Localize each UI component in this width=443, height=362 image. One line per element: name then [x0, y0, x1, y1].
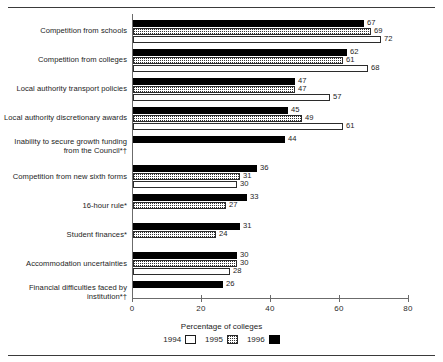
bar-1995-accommodation-uncertainties [133, 260, 237, 267]
value-label-1996-student-finances: 31 [243, 221, 252, 230]
category-label-local-authority-discretionary-awards: Local authority discretionary awards [4, 114, 127, 123]
category-label-accommodation-uncertainties: Accommodation uncertainties [26, 260, 127, 269]
x-tick-label-80: 80 [388, 304, 428, 313]
plot-area: 0 20 40 60 80 67 69 72 62 61 68 47 47 57… [132, 14, 408, 298]
legend-label-1994: 1994 [163, 335, 181, 344]
bar-1996-accommodation-uncertainties [133, 252, 237, 259]
value-label-1996-financial-difficulties: 26 [226, 279, 235, 288]
bar-1996-local-authority-transport-policies [133, 78, 295, 85]
value-label-1995-competition-from-colleges: 61 [346, 55, 355, 64]
x-tick-label-40: 40 [250, 304, 290, 313]
chart-legend: 1994 1995 1996 [0, 335, 443, 344]
bar-1994-accommodation-uncertainties [133, 268, 230, 275]
value-label-1995-16-hour-rule: 27 [229, 200, 238, 209]
bar-1994-competition-from-new-sixth-forms [133, 181, 237, 188]
category-label-student-finances: Student finances* [67, 231, 127, 240]
bar-1996-financial-difficulties [133, 281, 223, 288]
value-label-1994-local-authority-transport-policies: 57 [333, 92, 342, 101]
bar-1995-student-finances [133, 231, 216, 238]
value-label-1996-16-hour-rule: 33 [250, 192, 259, 201]
value-label-1995-local-authority-transport-policies: 47 [298, 84, 307, 93]
x-tick-label-60: 60 [319, 304, 359, 313]
category-label-competition-from-schools: Competition from schools [40, 27, 127, 36]
bar-1996-local-authority-discretionary-awards [133, 107, 288, 114]
category-label-inability-to-secure-growth-funding-line2: from the Council*† [64, 147, 127, 156]
value-label-1994-accommodation-uncertainties: 28 [233, 266, 242, 275]
value-label-1994-competition-from-schools: 72 [384, 34, 393, 43]
category-label-local-authority-transport-policies: Local authority transport policies [16, 85, 127, 94]
bar-1995-16-hour-rule [133, 202, 226, 209]
x-tick-80 [408, 295, 409, 302]
bar-1994-competition-from-schools [133, 36, 381, 43]
category-label-competition-from-new-sixth-forms: Competition from new sixth forms [13, 173, 127, 182]
bar-1995-competition-from-colleges [133, 57, 343, 64]
legend-entry-1996: 1996 [247, 335, 280, 344]
bar-1995-local-authority-transport-policies [133, 86, 295, 93]
value-label-1995-student-finances: 24 [219, 229, 228, 238]
bar-1994-competition-from-colleges [133, 65, 368, 72]
category-label-16-hour-rule: 16-hour rule* [82, 202, 127, 211]
legend-swatch-1995-icon [227, 335, 238, 344]
legend-entry-1995: 1995 [205, 335, 238, 344]
x-tick-0 [132, 295, 133, 302]
legend-label-1996: 1996 [247, 335, 265, 344]
bar-1996-competition-from-new-sixth-forms [133, 165, 257, 172]
bar-1994-local-authority-transport-policies [133, 94, 330, 101]
value-label-1996-competition-from-new-sixth-forms: 36 [260, 163, 269, 172]
bar-1996-competition-from-colleges [133, 49, 347, 56]
bar-1996-competition-from-schools [133, 20, 364, 27]
bottom-divider-rule [8, 355, 435, 356]
category-label-financial-difficulties-line2: institution*† [87, 293, 127, 302]
bar-1995-local-authority-discretionary-awards [133, 115, 302, 122]
x-tick-20 [201, 295, 202, 302]
value-label-1995-local-authority-discretionary-awards: 49 [305, 113, 314, 122]
value-label-1994-competition-from-new-sixth-forms: 30 [240, 179, 249, 188]
legend-swatch-1996-icon [269, 335, 280, 344]
x-axis-title: Percentage of colleges [0, 322, 443, 331]
legend-swatch-1994-icon [185, 335, 196, 344]
x-tick-40 [270, 295, 271, 302]
bar-1996-inability-to-secure-growth-funding [133, 136, 285, 143]
value-label-1994-competition-from-colleges: 68 [371, 63, 380, 72]
category-label-competition-from-colleges: Competition from colleges [38, 56, 127, 65]
x-tick-60 [339, 295, 340, 302]
bar-1994-local-authority-discretionary-awards [133, 123, 343, 130]
value-label-1996-local-authority-discretionary-awards: 45 [291, 105, 300, 114]
legend-entry-1994: 1994 [163, 335, 196, 344]
bar-1995-competition-from-new-sixth-forms [133, 173, 240, 180]
bar-chart-figure: Competition from schools Competition fro… [0, 0, 443, 362]
x-tick-label-20: 20 [181, 304, 221, 313]
top-divider-rule [8, 7, 435, 8]
bar-1995-competition-from-schools [133, 28, 371, 35]
value-label-1995-competition-from-schools: 69 [374, 26, 383, 35]
x-tick-label-0: 0 [112, 304, 152, 313]
value-label-1996-inability-to-secure-growth-funding: 44 [288, 134, 297, 143]
value-label-1994-local-authority-discretionary-awards: 61 [346, 121, 355, 130]
legend-label-1995: 1995 [205, 335, 223, 344]
